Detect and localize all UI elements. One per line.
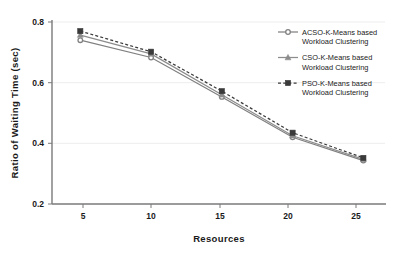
x-tick-labels: 5 10 15 20 25 (81, 211, 361, 221)
legend-label-cso-line2: Workload Clustering (302, 63, 368, 72)
chart-legend: ACSO-K-Means basedWorkload ClusteringCSO… (278, 28, 377, 98)
legend-label-pso-line2: Workload Clustering (302, 88, 368, 97)
data-point-pso-5 (78, 29, 83, 34)
legend-label-pso-line1: PSO-K-Means based (302, 79, 372, 88)
x-axis-title: Resources (193, 233, 245, 244)
y-axis-title: Ratio of Waiting Time (sec) (9, 48, 20, 179)
legend-marker-pso (285, 80, 290, 85)
y-tick-label-0: 0.2 (32, 199, 44, 209)
legend-item-pso[interactable]: PSO-K-Means basedWorkload Clustering (278, 79, 372, 98)
x-tick-label-3: 20 (283, 211, 293, 221)
legend-label-acso-line2: Workload Clustering (302, 37, 368, 46)
data-point-acso-5 (78, 38, 83, 43)
line-chart: 0.2 0.4 0.6 0.8 5 10 15 20 25 Ratio of W… (0, 0, 406, 257)
legend-item-acso[interactable]: ACSO-K-Means basedWorkload Clustering (278, 28, 377, 47)
y-tick-labels: 0.2 0.4 0.6 0.8 (32, 17, 44, 209)
data-point-pso-10 (148, 49, 153, 54)
data-point-pso-15 (219, 89, 224, 94)
y-tick-label-1: 0.4 (32, 138, 44, 148)
y-tick-label-2: 0.6 (32, 78, 44, 88)
x-tick-label-0: 5 (81, 211, 86, 221)
data-point-pso-20 (290, 130, 295, 135)
legend-label-acso-line1: ACSO-K-Means based (302, 28, 377, 37)
data-point-pso-25 (361, 155, 366, 160)
axis-lines (52, 20, 386, 204)
y-tick-label-3: 0.8 (32, 17, 44, 27)
legend-item-cso[interactable]: CSO-K-Means basedWorkload Clustering (278, 53, 372, 72)
legend-label-cso-line1: CSO-K-Means based (302, 53, 372, 62)
chart-container: 0.2 0.4 0.6 0.8 5 10 15 20 25 Ratio of W… (0, 0, 406, 257)
x-tick-label-4: 25 (351, 211, 361, 221)
legend-marker-acso (286, 30, 291, 35)
x-tick-label-2: 15 (215, 211, 225, 221)
x-tick-label-1: 10 (146, 211, 156, 221)
